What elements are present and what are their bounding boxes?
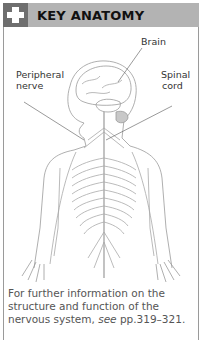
label-brain: Brain [141, 36, 166, 47]
panel-title: KEY ANATOMY [37, 8, 144, 23]
caption-see: see [98, 313, 116, 325]
caption-page-ref: pp.319–321. [117, 313, 186, 325]
panel-header: KEY ANATOMY [3, 3, 199, 27]
label-spinal-line1: Spinal [161, 69, 190, 80]
label-peripheral-line1: Peripheral [16, 69, 64, 80]
label-spinal-line2: cord [162, 80, 183, 91]
medical-cross-icon [3, 3, 28, 27]
caption-text: For further information on the structure… [8, 287, 198, 326]
label-peripheral-line2: nerve [16, 80, 43, 91]
nervous-system-illustration: Brain Peripheral nerve Spinal cord [4, 28, 198, 256]
